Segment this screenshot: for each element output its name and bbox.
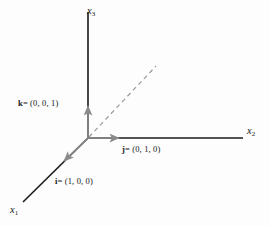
vector-label-j: j= (0, 1, 0) [122, 145, 160, 154]
axis-label-x3: x3 [87, 6, 95, 17]
vector-components-i: = (1, 0, 0) [58, 176, 93, 186]
axis-label-x1: x1 [10, 205, 18, 216]
vector-components-j: = (0, 1, 0) [125, 144, 160, 154]
vector-components-k: = (0, 0, 1) [23, 98, 58, 108]
coordinate-axes-figure [0, 0, 270, 226]
axis-label-x2: x2 [247, 126, 255, 137]
vector-label-i: i= (1, 0, 0) [55, 177, 93, 186]
vector-label-k: k= (0, 0, 1) [18, 99, 58, 108]
figure-background [0, 0, 270, 226]
